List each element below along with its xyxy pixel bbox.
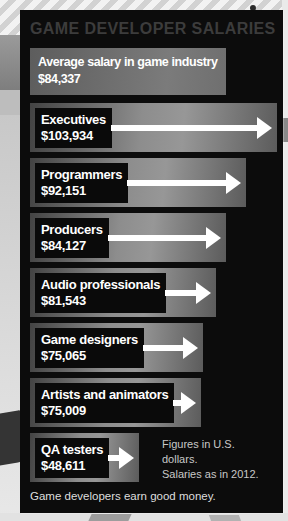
arrow-right-icon (127, 172, 241, 194)
caption: Game developers earn good money. (30, 489, 273, 503)
job-title: Game designers (41, 332, 138, 348)
background-photo-shape (88, 514, 131, 521)
footnote: Figures in U.S. dollars. Salaries as in … (162, 437, 273, 482)
job-title: QA testers (41, 442, 103, 458)
salary-label-box: Producers $84,127 (35, 218, 109, 258)
footnote-line-1: Figures in U.S. dollars. (162, 437, 273, 467)
salary-value: $103,934 (41, 128, 106, 144)
arrow-right-icon (173, 392, 196, 414)
salary-bar: Audio professionals $81,543 (30, 268, 216, 317)
salary-label-box: Programmers $92,151 (35, 163, 128, 203)
salary-row-executives: Executives $103,934 (30, 103, 273, 152)
salary-value: $81,543 (41, 293, 160, 309)
background-left-band (0, 35, 21, 90)
background-bottom-strip (0, 513, 288, 521)
salary-label-box: Game designers $75,065 (35, 328, 144, 368)
salary-row-designers: Game designers $75,065 (30, 323, 273, 372)
arrow-right-icon (143, 337, 198, 359)
salary-label-box: Artists and animators $75,009 (35, 383, 174, 423)
infographic-panel: GAME DEVELOPER SALARIES Average salary i… (20, 10, 283, 513)
salary-bar: Producers $84,127 (30, 213, 226, 262)
salary-value: $48,611 (41, 458, 103, 474)
salary-value: $84,127 (41, 238, 103, 254)
job-title: Artists and animators (41, 387, 168, 403)
salary-bar: Programmers $92,151 (30, 158, 246, 207)
arrow-right-icon (111, 117, 272, 139)
average-salary-label: Average salary in game industry (38, 54, 218, 71)
salary-bar: Artists and animators $75,009 (30, 378, 201, 427)
salary-row-programmers: Programmers $92,151 (30, 158, 273, 207)
salary-value: $75,065 (41, 348, 138, 364)
salary-row-audio: Audio professionals $81,543 (30, 268, 273, 317)
job-title: Executives (41, 112, 106, 128)
background-left-light-band (0, 90, 21, 115)
salary-bar: Executives $103,934 (30, 103, 277, 152)
salary-row-qa: QA testers $48,611 Figures in U.S. dolla… (30, 433, 273, 482)
salary-bar: Game designers $75,065 (30, 323, 203, 372)
salary-label-box: QA testers $48,611 (35, 438, 109, 478)
job-title: Programmers (41, 167, 122, 183)
average-salary-box: Average salary in game industry $84,337 (30, 48, 226, 95)
salary-row-producers: Producers $84,127 (30, 213, 273, 262)
salary-label-box: Executives $103,934 (35, 108, 112, 148)
salary-value: $92,151 (41, 183, 122, 199)
job-title: Producers (41, 222, 103, 238)
salary-row-artists: Artists and animators $75,009 (30, 378, 273, 427)
salary-label-box: Audio professionals $81,543 (35, 273, 166, 313)
arrow-right-icon (108, 227, 221, 249)
chart-title: GAME DEVELOPER SALARIES (30, 19, 273, 39)
salary-bar: QA testers $48,611 (30, 433, 139, 482)
arrow-right-icon (165, 282, 211, 304)
background-photo-shape (0, 410, 22, 467)
average-salary-value: $84,337 (38, 71, 218, 88)
job-title: Audio professionals (41, 277, 160, 293)
salary-value: $75,009 (41, 403, 168, 419)
background-photo-shape (209, 515, 241, 521)
footnote-line-2: Salaries as in 2012. (162, 467, 273, 482)
arrow-right-icon (108, 447, 134, 469)
